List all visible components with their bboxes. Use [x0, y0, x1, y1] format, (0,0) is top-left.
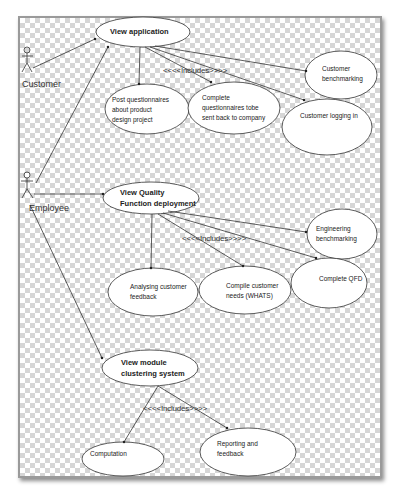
usecase-complete-qfd[interactable]: Complete QFD [319, 274, 362, 284]
usecase-analysing-feedback[interactable]: Analysing customer feedback [130, 282, 187, 302]
employee-actor-icon [21, 172, 33, 198]
usecase-view-module[interactable]: View module clustering system [121, 357, 185, 379]
includes-label-module: <<<<Includes>>>> [143, 404, 207, 413]
usecase-customer-logging-in[interactable]: Customer logging in [300, 111, 358, 121]
usecase-computation[interactable]: Computation [90, 449, 127, 459]
includes-label-qfd: <<<<Includes>>>> [182, 234, 246, 243]
usecase-view-application[interactable]: View application [110, 26, 169, 37]
usecase-view-qfd[interactable]: View Quality Function deployment [120, 187, 196, 209]
actor-label-employee: Employee [29, 203, 69, 213]
usecase-complete-questionnaires[interactable]: Complete questionnaires tobe sent back t… [202, 93, 265, 123]
includes-label-application: <<<<Includes>>>> [163, 66, 227, 75]
usecase-engineering-benchmarking[interactable]: Engineering benchmarking [316, 224, 357, 244]
usecase-reporting-feedback[interactable]: Reporting and feedback [217, 439, 258, 459]
usecase-compile-needs[interactable]: Compile customer needs (WHATS) [226, 281, 278, 301]
customer-actor-icon [22, 47, 33, 72]
usecase-customer-benchmarking[interactable]: Customer benchmarking [322, 64, 363, 84]
actor-label-customer: Customer [22, 79, 61, 89]
usecase-post-questionnaires[interactable]: Post questionnaires about product design… [112, 95, 169, 125]
